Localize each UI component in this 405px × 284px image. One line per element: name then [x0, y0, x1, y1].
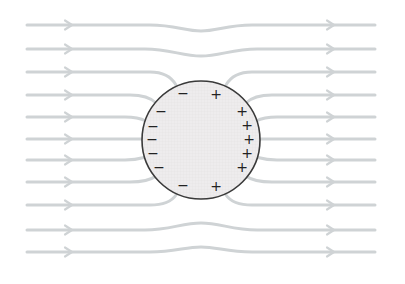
field-diagram: −−−−−−−+++++++ — [0, 0, 405, 284]
field-line — [256, 157, 375, 160]
negative-charge-icon: − — [153, 159, 165, 175]
negative-charge-icon: − — [177, 177, 189, 193]
field-line — [27, 49, 375, 56]
field-line — [27, 95, 156, 103]
field-line — [27, 195, 176, 205]
field-line — [27, 157, 146, 160]
field-line — [27, 25, 375, 31]
field-line — [27, 247, 375, 252]
negative-charge-icon: − — [155, 103, 167, 119]
positive-charge-icon: + — [210, 178, 222, 194]
field-line — [246, 95, 375, 103]
field-line — [226, 72, 375, 85]
positive-charge-icon: + — [236, 159, 248, 175]
field-line — [226, 195, 375, 205]
positive-charge-icon: + — [210, 86, 222, 102]
field-line — [246, 176, 375, 182]
field-line — [27, 72, 176, 85]
field-line — [27, 176, 156, 182]
field-line — [27, 223, 375, 230]
negative-charge-icon: − — [177, 85, 189, 101]
field-line — [27, 117, 146, 121]
field-line — [256, 117, 375, 121]
